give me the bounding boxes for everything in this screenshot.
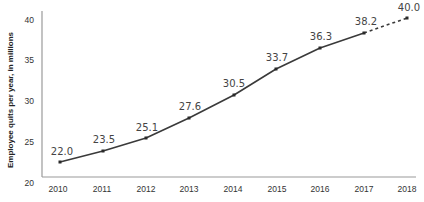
x-tick-label: 2014	[224, 184, 243, 194]
data-value-label: 27.6	[179, 101, 201, 112]
y-tick-label: 35	[25, 55, 35, 65]
y-tick-label: 30	[25, 96, 35, 106]
data-point-marker	[363, 32, 366, 35]
x-tick-labels: 2010 2011 2012 2013 2014 2015 2016 2017 …	[49, 184, 417, 194]
x-tick-label: 2018	[398, 184, 417, 194]
x-tick-label: 2011	[93, 184, 112, 194]
data-point-marker	[59, 161, 62, 164]
y-tick-label: 25	[25, 137, 35, 147]
data-value-label: 22.0	[51, 146, 73, 157]
x-tick-label: 2015	[268, 184, 287, 194]
data-value-label: 23.5	[93, 134, 115, 145]
y-tick-labels: 40 35 30 25 20	[25, 15, 35, 188]
y-axis-title: Employee quits per year, in millions	[6, 31, 15, 168]
x-tick-label: 2010	[49, 184, 68, 194]
data-point-marker	[145, 137, 148, 140]
data-value-label: 30.5	[223, 78, 245, 89]
data-point-marker	[188, 117, 191, 120]
data-point-marker	[406, 17, 409, 20]
data-value-label: 25.1	[136, 122, 158, 133]
data-labels: 22.0 23.5 25.1 27.6 30.5 33.7 36.3 38.2 …	[51, 2, 420, 157]
data-value-label: 33.7	[266, 52, 288, 63]
line-chart: Employee quits per year, in millions 40 …	[0, 0, 424, 202]
data-point-marker	[319, 47, 322, 50]
x-tick-label: 2012	[137, 184, 156, 194]
data-point-marker	[275, 68, 278, 71]
data-value-label: 40.0	[398, 2, 420, 13]
data-point-marker	[233, 94, 236, 97]
y-tick-label: 20	[25, 178, 35, 188]
data-point-marker	[102, 150, 105, 153]
x-tick-label: 2016	[311, 184, 330, 194]
data-value-label: 38.2	[355, 16, 377, 27]
data-value-label: 36.3	[310, 31, 332, 42]
x-tick-label: 2017	[355, 184, 374, 194]
y-tick-label: 40	[25, 15, 35, 25]
x-tick-label: 2013	[180, 184, 199, 194]
